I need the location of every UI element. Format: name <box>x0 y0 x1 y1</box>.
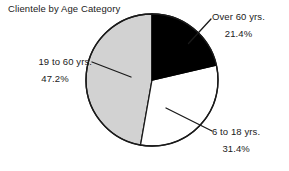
pie-label-19-to-60-name: 19 to 60 yrs. <box>38 56 92 67</box>
pie-label-over-60-name: Over 60 yrs. <box>212 11 265 22</box>
pie-label-over-60-percent: 21.4% <box>212 28 265 40</box>
pie-label-6-to-18-name: 6 to 18 yrs. <box>212 126 260 137</box>
pie-label-over-60: Over 60 yrs. 21.4% <box>212 11 265 40</box>
pie-label-6-to-18: 6 to 18 yrs. 31.4% <box>212 126 260 155</box>
pie-label-19-to-60: 19 to 60 yrs. 47.2% <box>18 56 92 85</box>
pie-label-6-to-18-percent: 31.4% <box>212 143 260 155</box>
pie-label-19-to-60-percent: 47.2% <box>18 73 92 85</box>
pie-chart-figure: Clientele by Age Category Over 60 yrs. 2… <box>0 0 289 171</box>
pie-slice-19-to-60[interactable] <box>86 14 152 145</box>
chart-title: Clientele by Age Category <box>8 3 120 15</box>
